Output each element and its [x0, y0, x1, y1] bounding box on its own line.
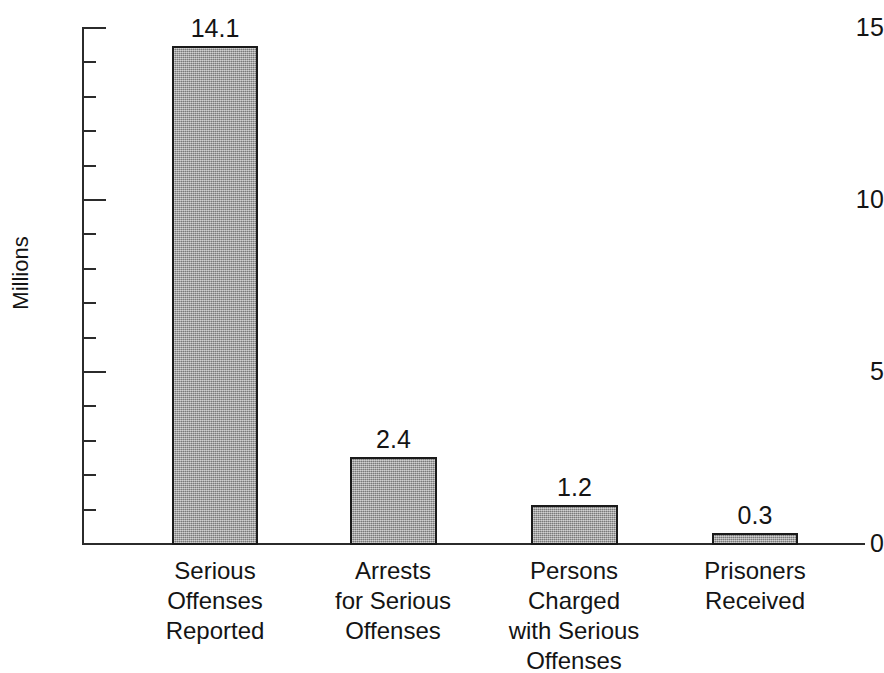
y-tick-minor-11 [84, 165, 96, 167]
y-tick-major-5 [84, 371, 106, 373]
bar-category-line: Offenses [308, 616, 478, 646]
bar-category-label-3: Prisoners Received [670, 556, 840, 616]
y-tick-label-15: 15 [812, 15, 884, 40]
y-tick-minor-1 [84, 509, 96, 511]
y-tick-minor-7 [84, 302, 96, 304]
y-tick-major-15 [84, 27, 106, 29]
y-tick-minor-8 [84, 268, 96, 270]
bar-value-label-3: 0.3 [712, 503, 798, 528]
y-tick-minor-6 [84, 337, 96, 339]
bar-category-line: Offenses [484, 646, 664, 673]
bar-3 [712, 533, 798, 545]
bar-category-line: Serious [130, 556, 300, 586]
y-tick-label-5: 5 [812, 359, 884, 384]
y-tick-minor-14 [84, 61, 96, 63]
bar-0 [172, 46, 258, 545]
bar-category-line: Persons [484, 556, 664, 586]
bar-category-label-2: Persons Charged with Serious Offenses [484, 556, 664, 673]
bar-category-line: Prisoners [670, 556, 840, 586]
bar-value-label-0: 14.1 [172, 16, 258, 41]
bar-category-line: Reported [130, 616, 300, 646]
bar-category-line: Offenses [130, 586, 300, 616]
bar-category-label-1: Arrests for Serious Offenses [308, 556, 478, 646]
y-tick-minor-3 [84, 440, 96, 442]
y-tick-minor-13 [84, 96, 96, 98]
bar-category-line: Charged [484, 586, 664, 616]
bar-category-line: Arrests [308, 556, 478, 586]
bar-category-label-0: Serious Offenses Reported [130, 556, 300, 646]
y-tick-major-10 [84, 199, 106, 201]
bar-value-label-1: 2.4 [350, 427, 437, 452]
bar-value-label-2: 1.2 [531, 475, 618, 500]
bar-1 [350, 457, 437, 545]
y-tick-label-10: 10 [812, 187, 884, 212]
y-tick-major-0 [84, 543, 106, 545]
bar-category-line: for Serious [308, 586, 478, 616]
bar-category-line: Received [670, 586, 840, 616]
y-tick-minor-12 [84, 130, 96, 132]
bar-2 [531, 505, 618, 545]
bar-category-line: with Serious [484, 616, 664, 646]
y-tick-minor-9 [84, 233, 96, 235]
y-tick-minor-4 [84, 405, 96, 407]
y-axis-line [82, 27, 84, 545]
y-tick-label-0: 0 [812, 531, 884, 556]
y-tick-minor-2 [84, 474, 96, 476]
y-axis-title: Millions [10, 208, 32, 338]
